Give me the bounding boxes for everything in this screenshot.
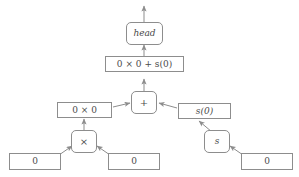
node-zero-middle[interactable]: 0 [108,153,160,170]
node-times[interactable]: × [71,130,97,153]
edge-mulexpr-to-plus [113,103,130,107]
node-succ[interactable]: s [204,130,230,153]
node-head[interactable]: head [126,22,163,45]
diagram-canvas: head 0 × 0 + s(0) + 0 × 0 s(0) × s 0 0 0 [0,0,299,177]
edge-succexpr-to-plus [159,103,177,108]
node-zero-right[interactable]: 0 [241,153,293,170]
node-plus[interactable]: + [131,91,157,114]
node-zero-left[interactable]: 0 [9,153,61,170]
node-expression[interactable]: 0 × 0 + s(0) [105,56,184,72]
node-mul-expression[interactable]: 0 × 0 [57,102,112,118]
node-succ-expression[interactable]: s(0) [178,103,231,119]
